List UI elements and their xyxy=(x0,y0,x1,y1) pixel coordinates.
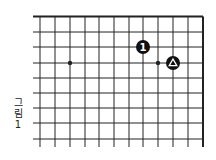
board-grid xyxy=(33,17,203,148)
star-point-icon xyxy=(68,61,72,65)
caption-char: 1 xyxy=(12,119,24,130)
go-board-diagram: 1 xyxy=(0,0,216,160)
move-number: 1 xyxy=(140,42,147,53)
caption-char: 그 xyxy=(12,97,24,108)
caption-char: 림 xyxy=(12,108,24,119)
black-stone-triangle-marked xyxy=(166,56,180,70)
figure-caption: 그 림 1 xyxy=(12,97,24,130)
black-stone-numbered: 1 xyxy=(136,40,150,54)
star-point-icon xyxy=(156,61,160,65)
